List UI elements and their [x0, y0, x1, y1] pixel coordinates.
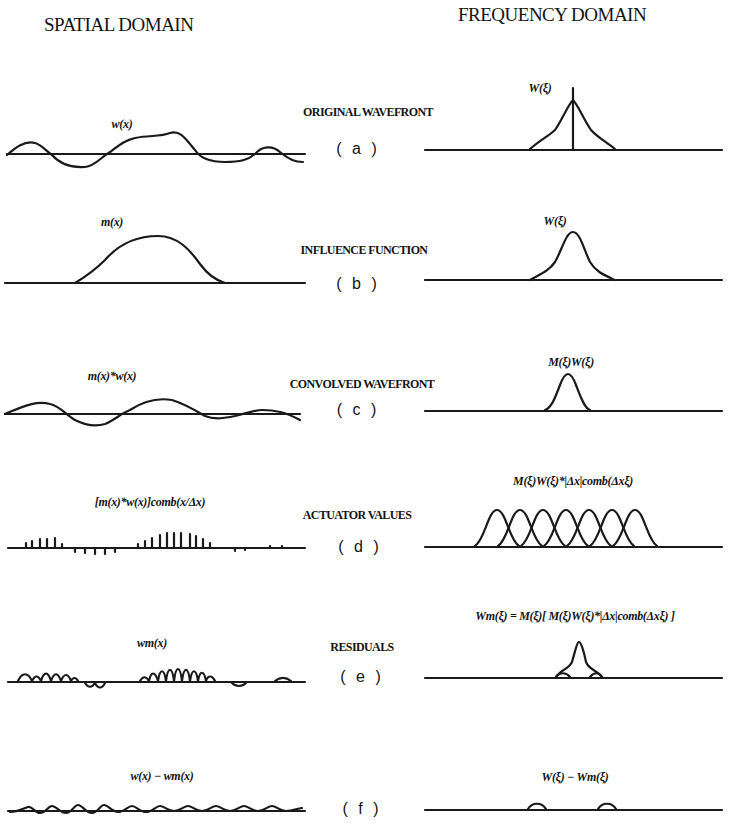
- spatial-plot-e: [8, 669, 305, 688]
- spatial-plot-a: [7, 132, 305, 167]
- frequency-plot-c: [425, 374, 722, 411]
- row-letter-f: ( f ): [343, 800, 382, 818]
- spatial-plot-b: [5, 236, 305, 283]
- row-letter-c: ( c ): [337, 401, 380, 419]
- row-letter-a: ( a ): [336, 140, 379, 158]
- caption-c: CONVOLVED WAVEFRONT: [290, 377, 435, 392]
- spatial-label-b: m(x): [101, 215, 123, 230]
- frequency-plot-f: [425, 804, 722, 810]
- spatial-label-e: wm(x): [137, 636, 167, 651]
- caption-a: ORIGINAL WAVEFRONT: [303, 105, 433, 120]
- row-letter-e: ( e ): [340, 668, 383, 686]
- frequency-label-a: W(ξ): [529, 81, 552, 96]
- spatial-label-a: w(x): [112, 117, 133, 132]
- frequency-label-b: W(ξ): [544, 214, 567, 229]
- caption-e: RESIDUALS: [330, 640, 393, 655]
- frequency-plot-e: [425, 642, 722, 678]
- frequency-plot-a: [425, 88, 722, 150]
- row-letter-d: ( d ): [338, 538, 381, 556]
- spatial-plot-f: [8, 805, 305, 813]
- frequency-label-d: M(ξ)W(ξ)*|Δx|comb(Δxξ): [513, 474, 633, 489]
- spatial-plot-d: [8, 533, 305, 554]
- frequency-label-c: M(ξ)W(ξ): [548, 355, 594, 370]
- frequency-plot-b: [425, 232, 722, 280]
- caption-d: ACTUATOR VALUES: [303, 508, 411, 523]
- frequency-label-f: W(ξ) − Wm(ξ): [542, 770, 609, 785]
- frequency-plot-d: [425, 510, 722, 547]
- spatial-plot-c: [5, 399, 300, 425]
- caption-b: INFLUENCE FUNCTION: [301, 243, 428, 258]
- spatial-label-c: m(x)*w(x): [88, 369, 137, 384]
- spatial-label-d: [m(x)*w(x)]comb(x/Δx): [95, 495, 206, 510]
- row-letter-b: ( b ): [336, 275, 379, 293]
- frequency-label-e: Wm(ξ) = M(ξ)[ M(ξ)W(ξ)*|Δx|comb(Δxξ) ]: [475, 609, 674, 624]
- waveform-plots: [0, 0, 735, 839]
- spatial-label-f: w(x) − wm(x): [131, 769, 194, 784]
